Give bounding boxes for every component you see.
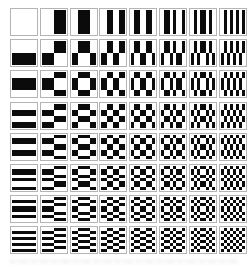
basis-cell-2-1 xyxy=(10,39,38,67)
basis-cell-4-8 xyxy=(219,102,247,130)
basis-pattern xyxy=(101,10,125,34)
basis-cell-4-6 xyxy=(159,102,187,130)
basis-cell-6-4 xyxy=(99,164,127,192)
basis-pattern xyxy=(12,104,36,128)
basis-pattern xyxy=(131,10,155,34)
basis-pattern xyxy=(72,10,96,34)
basis-cell-3-2 xyxy=(40,70,68,98)
basis-pattern xyxy=(131,72,155,96)
basis-pattern xyxy=(221,135,245,159)
basis-cell-1-6 xyxy=(159,8,187,36)
basis-cell-3-5 xyxy=(129,70,157,98)
basis-pattern xyxy=(42,72,66,96)
basis-pattern xyxy=(221,166,245,190)
basis-cell-2-4 xyxy=(99,39,127,67)
basis-cell-5-6 xyxy=(159,133,187,161)
basis-pattern xyxy=(191,72,215,96)
basis-cell-8-1 xyxy=(10,226,38,254)
basis-cell-5-1 xyxy=(10,133,38,161)
basis-cell-3-1 xyxy=(10,70,38,98)
basis-cell-1-4 xyxy=(99,8,127,36)
basis-pattern xyxy=(42,41,66,65)
basis-pattern xyxy=(12,135,36,159)
basis-pattern xyxy=(12,72,36,96)
basis-cell-6-7 xyxy=(189,164,217,192)
basis-cell-6-2 xyxy=(40,164,68,192)
basis-pattern xyxy=(161,135,185,159)
basis-pattern xyxy=(42,228,66,252)
basis-cell-3-8 xyxy=(219,70,247,98)
basis-pattern xyxy=(221,41,245,65)
basis-pattern xyxy=(191,41,215,65)
basis-pattern xyxy=(191,104,215,128)
basis-pattern xyxy=(42,135,66,159)
basis-pattern xyxy=(101,197,125,221)
basis-cell-4-2 xyxy=(40,102,68,130)
basis-cell-5-3 xyxy=(70,133,98,161)
basis-cell-3-6 xyxy=(159,70,187,98)
basis-pattern xyxy=(101,135,125,159)
basis-cell-2-7 xyxy=(189,39,217,67)
basis-cell-1-8 xyxy=(219,8,247,36)
basis-cell-3-7 xyxy=(189,70,217,98)
basis-pattern xyxy=(12,228,36,252)
basis-pattern xyxy=(131,166,155,190)
basis-cell-8-3 xyxy=(70,226,98,254)
bottom-ghost-artifact xyxy=(10,259,238,264)
basis-cell-4-3 xyxy=(70,102,98,130)
basis-cell-2-3 xyxy=(70,39,98,67)
basis-pattern xyxy=(42,166,66,190)
basis-cell-1-2 xyxy=(40,8,68,36)
basis-pattern xyxy=(161,166,185,190)
basis-pattern xyxy=(101,41,125,65)
basis-cell-8-8 xyxy=(219,226,247,254)
basis-cell-2-5 xyxy=(129,39,157,67)
basis-cell-7-6 xyxy=(159,195,187,223)
basis-cell-5-5 xyxy=(129,133,157,161)
basis-pattern xyxy=(191,135,215,159)
basis-cell-6-1 xyxy=(10,164,38,192)
basis-pattern xyxy=(72,228,96,252)
basis-cell-5-2 xyxy=(40,133,68,161)
basis-pattern xyxy=(131,197,155,221)
basis-pattern xyxy=(221,10,245,34)
basis-cell-8-6 xyxy=(159,226,187,254)
basis-pattern xyxy=(72,104,96,128)
basis-cell-1-3 xyxy=(70,8,98,36)
basis-cell-8-5 xyxy=(129,226,157,254)
basis-pattern xyxy=(161,10,185,34)
basis-pattern xyxy=(12,166,36,190)
basis-pattern xyxy=(12,197,36,221)
basis-cell-7-5 xyxy=(129,195,157,223)
basis-cell-7-1 xyxy=(10,195,38,223)
basis-cell-3-3 xyxy=(70,70,98,98)
basis-cell-1-1 xyxy=(10,8,38,36)
basis-pattern xyxy=(191,10,215,34)
basis-cell-4-4 xyxy=(99,102,127,130)
basis-cell-5-7 xyxy=(189,133,217,161)
basis-cell-3-4 xyxy=(99,70,127,98)
basis-pattern xyxy=(161,228,185,252)
basis-cell-8-4 xyxy=(99,226,127,254)
basis-cell-5-8 xyxy=(219,133,247,161)
basis-pattern xyxy=(101,72,125,96)
basis-pattern xyxy=(161,197,185,221)
basis-pattern xyxy=(42,197,66,221)
basis-cell-4-7 xyxy=(189,102,217,130)
basis-pattern xyxy=(131,104,155,128)
basis-pattern xyxy=(131,135,155,159)
basis-cell-2-6 xyxy=(159,39,187,67)
basis-cell-4-5 xyxy=(129,102,157,130)
basis-cell-4-1 xyxy=(10,102,38,130)
basis-cell-6-8 xyxy=(219,164,247,192)
basis-cell-2-2 xyxy=(40,39,68,67)
basis-cell-7-4 xyxy=(99,195,127,223)
basis-pattern xyxy=(191,197,215,221)
basis-pattern xyxy=(72,135,96,159)
basis-pattern xyxy=(161,41,185,65)
basis-cell-7-2 xyxy=(40,195,68,223)
basis-pattern xyxy=(221,104,245,128)
basis-pattern xyxy=(161,104,185,128)
basis-pattern xyxy=(72,166,96,190)
basis-pattern xyxy=(72,197,96,221)
